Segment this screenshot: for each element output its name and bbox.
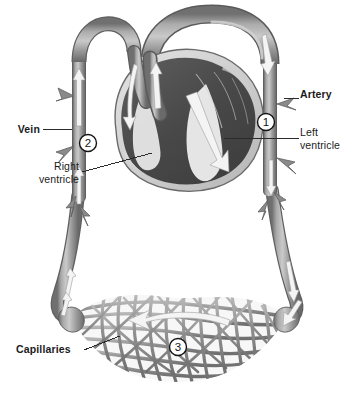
circulation-diagram-artwork: 1 2 3 xyxy=(0,0,347,394)
label-left-ventricle: Left ventricle xyxy=(300,126,340,151)
callout-2-number: 2 xyxy=(85,137,91,149)
heart-cutaway xyxy=(115,49,263,194)
callout-1-number: 1 xyxy=(263,116,269,128)
callout-1[interactable]: 1 xyxy=(258,114,275,131)
callout-3-number: 3 xyxy=(175,341,181,353)
callout-3[interactable]: 3 xyxy=(170,339,187,356)
figure-canvas: 1 2 3 Artery Left ventricle Vein Right v… xyxy=(0,0,347,394)
label-vein: Vein xyxy=(0,123,40,136)
callout-2[interactable]: 2 xyxy=(80,135,97,152)
label-capillaries: Capillaries xyxy=(16,343,71,356)
label-right-ventricle: Right ventricle xyxy=(0,160,79,185)
label-artery: Artery xyxy=(300,88,332,101)
